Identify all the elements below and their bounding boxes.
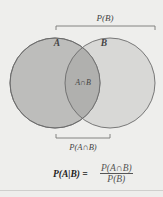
formula-numerator: P(A∩B) (100, 163, 133, 174)
set-a-label: A (53, 38, 60, 48)
bottom-bracket (56, 134, 110, 138)
top-bracket (56, 26, 155, 30)
formula-fraction: P(A∩B) P(B) (100, 163, 133, 184)
set-b-label: B (100, 38, 107, 48)
venn-diagram: P(B) A B A∩B P(A∩B) (0, 0, 163, 197)
bottom-bracket-label: P(A∩B) (68, 142, 97, 152)
intersection-label: A∩B (74, 78, 91, 87)
formula-denominator: P(B) (100, 174, 133, 184)
top-bracket-label: P(B) (96, 13, 114, 23)
bottom-divider (0, 190, 163, 191)
formula-lhs: P(A|B) = (53, 169, 88, 179)
